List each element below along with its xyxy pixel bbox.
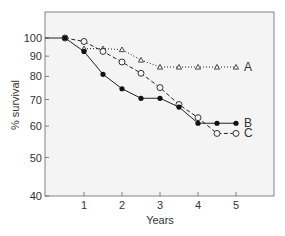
series-b-point: [138, 96, 143, 101]
series-b-point: [81, 49, 86, 54]
x-tick-label: 5: [233, 199, 239, 211]
series-b-point: [157, 96, 162, 101]
x-tick-label: 1: [81, 199, 87, 211]
series-a-label: A: [244, 60, 252, 74]
y-tick-label: 90: [30, 50, 42, 62]
series-c-point: [157, 85, 163, 91]
series-b-point: [176, 104, 181, 109]
x-tick-label: 3: [157, 199, 163, 211]
series-b-point: [62, 35, 67, 40]
series-c-point: [233, 130, 239, 136]
series-c-point: [100, 48, 106, 54]
series-c-point: [138, 70, 144, 76]
y-tick-label: 50: [30, 152, 42, 164]
survival-chart: 405060708090100 12345 ACB Years % surviv…: [0, 0, 285, 236]
series-c-point: [81, 38, 87, 44]
y-tick-label: 80: [30, 70, 42, 82]
series-b-point: [214, 121, 219, 126]
series-b-point: [119, 86, 124, 91]
series-b-point: [195, 121, 200, 126]
y-axis-title: % survival: [9, 80, 21, 130]
x-tick-label: 2: [119, 199, 125, 211]
series-c-point: [195, 115, 201, 121]
series-b-label: B: [244, 116, 252, 130]
series-c-point: [119, 59, 125, 65]
y-tick-label: 60: [30, 120, 42, 132]
series-c-point: [214, 130, 220, 136]
series-b-point: [233, 121, 238, 126]
y-tick-label: 70: [30, 94, 42, 106]
plot-background: [45, 12, 274, 196]
y-tick-label: 40: [30, 190, 42, 202]
series-b-point: [100, 72, 105, 77]
y-tick-label: 100: [24, 32, 42, 44]
x-tick-label: 4: [195, 199, 201, 211]
x-axis-title: Years: [146, 214, 174, 226]
